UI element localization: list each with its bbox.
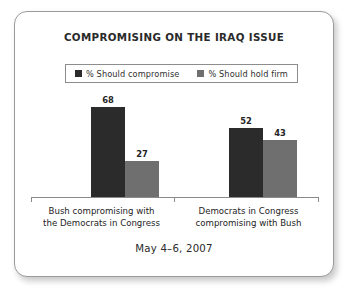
category-label-1: Democrats in Congress compromising with …: [176, 206, 321, 229]
axis-tick-left: [31, 197, 32, 202]
legend-label-hold-firm: % Should hold firm: [208, 69, 287, 79]
bar-g1-s1: [263, 140, 297, 197]
bar-value-g0-s0: 68: [91, 95, 125, 105]
legend-label-compromise: % Should compromise: [86, 69, 179, 79]
bar-value-g1-s0: 52: [229, 116, 263, 126]
chart-legend: % Should compromise % Should hold firm: [65, 64, 298, 83]
category-label-1-line-0: Democrats in Congress: [176, 206, 321, 218]
bar-g0-s1: [125, 161, 159, 197]
category-label-1-line-1: compromising with Bush: [176, 218, 321, 230]
legend-item-hold-firm: % Should hold firm: [197, 69, 287, 79]
bar-g1-s0: [229, 128, 263, 197]
bar-value-g0-s1: 27: [125, 149, 159, 159]
footer-date: May 4–6, 2007: [15, 243, 333, 254]
category-label-0-line-0: Bush compromising with: [29, 206, 174, 218]
category-label-0-line-1: the Democrats in Congress: [29, 218, 174, 230]
category-label-0: Bush compromising with the Democrats in …: [29, 206, 174, 229]
bar-value-g1-s1: 43: [263, 128, 297, 138]
legend-swatch-hold-firm: [197, 70, 204, 77]
bar-g0-s0: [91, 107, 125, 197]
chart-card: COMPROMISING ON THE IRAQ ISSUE % Should …: [14, 11, 334, 277]
plot-area: 68275243: [15, 12, 333, 276]
axis-tick-center: [174, 197, 175, 202]
legend-swatch-compromise: [75, 70, 82, 77]
page-title: COMPROMISING ON THE IRAQ ISSUE: [15, 31, 333, 43]
axis-tick-right: [318, 197, 319, 202]
legend-item-compromise: % Should compromise: [75, 69, 179, 79]
